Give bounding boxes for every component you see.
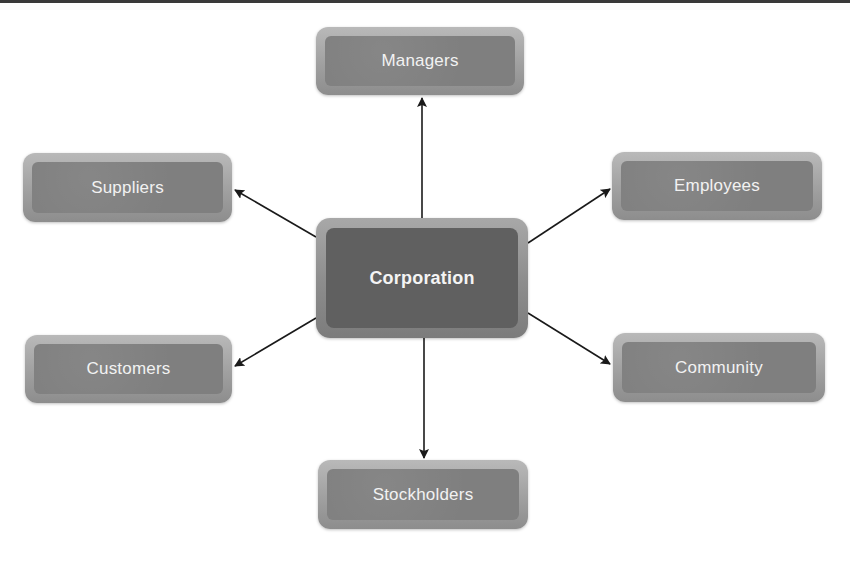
node-corporation-face: Corporation (326, 228, 518, 328)
node-suppliers-label: Suppliers (91, 178, 164, 198)
node-stockholders-label: Stockholders (373, 485, 474, 505)
node-employees-label: Employees (674, 176, 760, 196)
node-customers: Customers (25, 335, 232, 403)
node-employees: Employees (612, 152, 822, 220)
node-community-face: Community (622, 342, 816, 393)
node-suppliers: Suppliers (23, 153, 232, 222)
node-community: Community (613, 333, 825, 402)
arrow-to-suppliers (235, 190, 316, 237)
node-stockholders: Stockholders (318, 460, 528, 529)
node-customers-face: Customers (34, 344, 223, 394)
node-managers: Managers (316, 27, 524, 95)
node-managers-label: Managers (381, 51, 458, 71)
node-corporation: Corporation (316, 218, 528, 338)
node-stockholders-face: Stockholders (327, 469, 519, 520)
arrow-to-community (528, 313, 610, 364)
node-community-label: Community (675, 358, 763, 378)
arrow-to-employees (528, 189, 610, 243)
arrow-to-customers (235, 318, 316, 366)
node-suppliers-face: Suppliers (32, 162, 223, 213)
node-managers-face: Managers (325, 36, 515, 86)
node-corporation-label: Corporation (369, 268, 474, 289)
node-employees-face: Employees (621, 161, 813, 211)
node-customers-label: Customers (87, 359, 171, 379)
